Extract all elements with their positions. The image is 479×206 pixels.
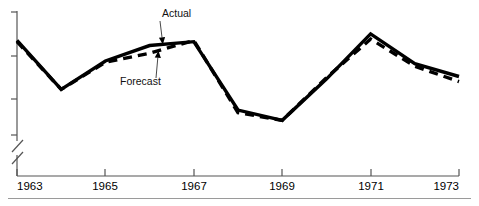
- x-tick-label-1971: 1971: [358, 180, 384, 192]
- chart-background: [0, 0, 479, 206]
- x-tick-label-1973: 1973: [433, 180, 459, 192]
- chart-container: 1963 1965 1967 1969 1971 1973 Actual For…: [0, 0, 479, 206]
- line-chart-figure: 1963 1965 1967 1969 1971 1973 Actual For…: [0, 0, 479, 206]
- x-tick-label-1965: 1965: [92, 180, 118, 192]
- x-tick-label-1969: 1969: [269, 180, 295, 192]
- x-tick-label-1963: 1963: [17, 180, 43, 192]
- annotation-actual-label: Actual: [162, 7, 191, 19]
- x-tick-label-1967: 1967: [181, 180, 207, 192]
- annotation-forecast-label: Forecast: [120, 75, 161, 87]
